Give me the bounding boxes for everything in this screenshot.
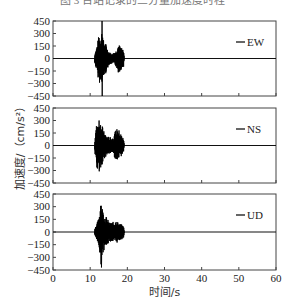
- legend-label: NS: [247, 123, 261, 135]
- y-tick-label: −450: [27, 264, 50, 276]
- y-tick-label: 300: [34, 114, 51, 126]
- y-axis-label: 加速度/（cm/s²）: [13, 101, 27, 190]
- x-tick-label: 10: [85, 272, 97, 284]
- legend-label: UD: [247, 209, 263, 221]
- x-axis-label: 时间/s: [149, 286, 181, 299]
- y-tick-label: −300: [27, 251, 50, 263]
- legend-label: EW: [247, 36, 265, 48]
- waveform-ew: [95, 21, 125, 96]
- y-tick-label: 150: [34, 127, 51, 139]
- y-tick-label: 0: [45, 139, 51, 151]
- y-tick-label: 0: [45, 52, 51, 64]
- waveform-ns: [95, 121, 125, 172]
- y-tick-label: −450: [27, 90, 50, 102]
- y-tick-label: −150: [27, 65, 50, 77]
- x-tick-label: 30: [159, 272, 171, 284]
- x-tick-label: 20: [122, 272, 134, 284]
- x-tick-label: 60: [271, 272, 283, 284]
- x-tick-label: 0: [50, 272, 56, 284]
- y-tick-label: −150: [27, 152, 50, 164]
- panel-ud: 4503001500−150−300−450UD: [27, 188, 276, 276]
- panel-ew: 4503001500−150−300−450EW: [27, 15, 276, 102]
- acceleration-chart: 4503001500−150−300−450EW4503001500−150−3…: [0, 0, 298, 307]
- waveform-ud: [95, 206, 125, 268]
- y-tick-label: −300: [27, 77, 50, 89]
- y-tick-label: 150: [34, 213, 51, 225]
- y-tick-label: 300: [34, 200, 51, 212]
- y-tick-label: 450: [34, 15, 51, 27]
- x-tick-label: 40: [196, 272, 208, 284]
- y-tick-label: 150: [34, 40, 51, 52]
- y-tick-label: −150: [27, 238, 50, 250]
- panel-ns: 4503001500−150−300−450NS: [27, 102, 276, 189]
- x-tick-label: 50: [233, 272, 245, 284]
- y-tick-label: −300: [27, 164, 50, 176]
- y-tick-label: 300: [34, 27, 51, 39]
- y-tick-label: 450: [34, 188, 51, 200]
- y-tick-label: 450: [34, 102, 51, 114]
- y-tick-label: 0: [45, 226, 51, 238]
